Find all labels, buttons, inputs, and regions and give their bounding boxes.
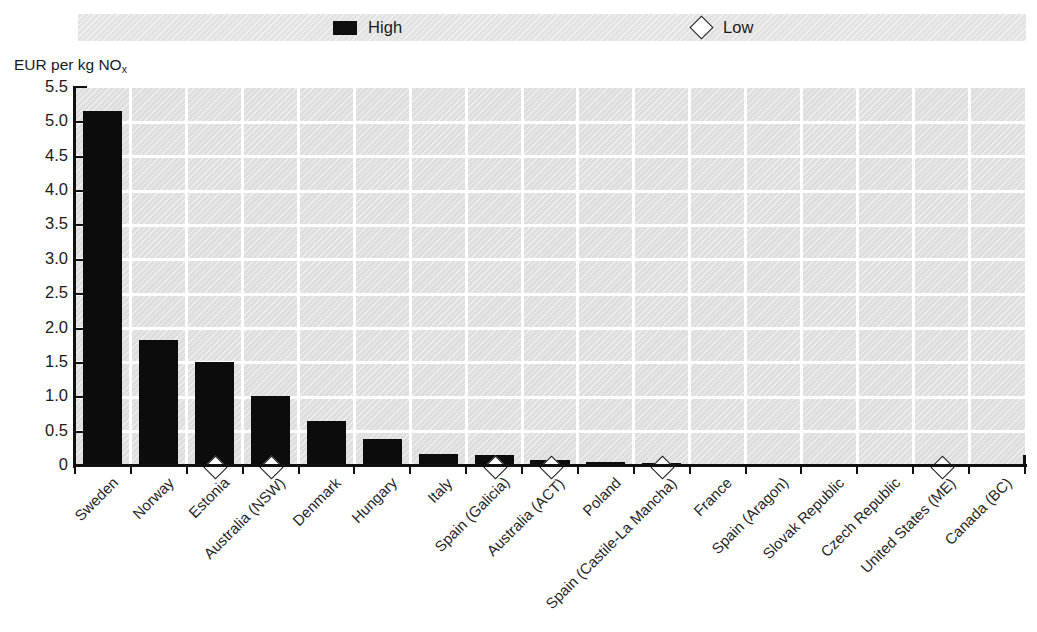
y-axis-tick xyxy=(75,121,84,123)
filled-square-icon xyxy=(333,21,357,35)
chart-legend: High Low xyxy=(78,14,1026,41)
legend-item-low[interactable]: Low xyxy=(693,14,754,41)
y-axis-tick xyxy=(75,362,84,364)
legend-label-high: High xyxy=(368,18,402,37)
bar-norway[interactable] xyxy=(139,340,178,466)
x-axis-label-poland[interactable]: Poland xyxy=(579,474,624,519)
y-axis-tick xyxy=(75,156,84,158)
y-axis-tick-label: 3.5 xyxy=(2,214,68,233)
y-axis-tick xyxy=(75,328,84,330)
y-axis-tick xyxy=(75,190,84,192)
y-axis-tick xyxy=(75,224,84,226)
y-axis-tick-label: 1.5 xyxy=(2,352,68,371)
y-axis-tick-label: 4.5 xyxy=(2,146,68,165)
y-axis-tick-label: 2.5 xyxy=(2,283,68,302)
y-axis-tick-label: 2.0 xyxy=(2,318,68,337)
x-axis-label-norway[interactable]: Norway xyxy=(129,474,177,522)
bar-sweden[interactable] xyxy=(83,111,122,466)
y-axis-tick-label: 5.5 xyxy=(2,77,68,96)
x-axis-label-united-states-me[interactable]: United States (ME) xyxy=(857,474,959,576)
y-axis-tick xyxy=(75,293,84,295)
x-axis-label-estonia[interactable]: Estonia xyxy=(185,474,232,521)
y-axis-tick-label: 4.0 xyxy=(2,180,68,199)
y-axis-tick xyxy=(75,396,84,398)
y-axis-tick-label: 5.0 xyxy=(2,111,68,130)
bar-estonia[interactable] xyxy=(195,362,234,466)
y-axis-tick-label: 3.0 xyxy=(2,249,68,268)
y-axis-tick xyxy=(75,259,84,261)
bars-layer xyxy=(75,88,1025,466)
x-axis-tick-labels: SwedenNorwayEstoniaAustralia (NSW)Denmar… xyxy=(0,466,1037,632)
y-axis-line xyxy=(73,86,76,468)
legend-item-high[interactable]: High xyxy=(333,14,402,41)
y-axis-tick-label: 1.0 xyxy=(2,386,68,405)
bar-hungary[interactable] xyxy=(363,439,402,466)
y-axis-tick-label: 0.5 xyxy=(2,421,68,440)
x-axis-label-sweden[interactable]: Sweden xyxy=(71,474,121,524)
x-axis-label-italy[interactable]: Italy xyxy=(424,474,455,505)
x-axis-label-france[interactable]: France xyxy=(690,474,735,519)
clipped-title xyxy=(0,0,1037,2)
y-axis-tick xyxy=(75,431,84,433)
legend-label-low: Low xyxy=(723,18,754,37)
x-axis-label-hungary[interactable]: Hungary xyxy=(348,474,400,526)
axis-top-cap xyxy=(73,86,87,88)
x-axis-label-denmark[interactable]: Denmark xyxy=(289,474,344,529)
bar-denmark[interactable] xyxy=(307,421,346,466)
open-diamond-icon xyxy=(689,15,713,39)
y-axis-caption-subscript: x xyxy=(122,63,127,75)
